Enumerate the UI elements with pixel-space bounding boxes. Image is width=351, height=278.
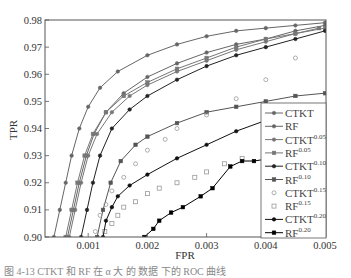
data-point xyxy=(272,178,276,182)
data-point xyxy=(128,184,132,188)
data-point xyxy=(128,108,132,112)
data-point xyxy=(86,154,90,158)
data-point xyxy=(175,67,179,71)
data-point xyxy=(122,175,126,179)
data-point xyxy=(294,32,298,36)
data-point xyxy=(83,154,87,158)
data-point xyxy=(122,94,126,98)
data-point xyxy=(70,154,74,158)
data-point xyxy=(169,211,173,215)
data-point xyxy=(234,45,238,49)
x-tick-label: 0.002 xyxy=(136,240,160,251)
data-point xyxy=(79,181,83,185)
y-tick-label: 0.95 xyxy=(24,96,42,107)
data-point xyxy=(152,227,156,231)
data-point xyxy=(181,205,185,209)
y-tick-label: 0.91 xyxy=(24,204,42,215)
data-point xyxy=(73,208,77,212)
x-tick-label: 0.001 xyxy=(76,240,100,251)
data-point xyxy=(146,53,150,57)
data-point xyxy=(146,75,150,79)
data-point xyxy=(116,213,120,217)
x-tick-label: 0.005 xyxy=(313,240,337,251)
data-point xyxy=(58,208,62,212)
x-tick-label: 0.003 xyxy=(195,240,219,251)
data-point xyxy=(234,129,238,133)
y-tick-label: 0.97 xyxy=(24,42,42,53)
data-point xyxy=(175,43,179,47)
data-point xyxy=(205,170,209,174)
legend: CTKTRFCTKT0.05RF0.05CTKT0.10RF0.10CTKT0.… xyxy=(261,103,326,239)
data-point xyxy=(110,189,114,193)
data-point xyxy=(157,219,161,223)
y-tick-label: 0.92 xyxy=(24,177,42,188)
data-point xyxy=(91,132,95,136)
data-point xyxy=(175,78,179,82)
data-point xyxy=(228,165,232,169)
data-point xyxy=(272,231,276,235)
data-point xyxy=(272,138,276,142)
data-point xyxy=(134,162,138,166)
data-point xyxy=(78,127,82,131)
data-point xyxy=(264,78,268,82)
data-point xyxy=(272,218,276,222)
data-point xyxy=(193,175,197,179)
data-point xyxy=(110,205,114,209)
y-tick-label: 0.96 xyxy=(24,69,42,80)
data-point xyxy=(272,125,276,129)
data-point xyxy=(205,64,209,68)
data-point xyxy=(294,94,298,98)
data-point xyxy=(175,181,179,185)
data-point xyxy=(116,70,120,74)
y-tick-label: 0.94 xyxy=(24,123,43,134)
data-point xyxy=(146,135,150,139)
data-point xyxy=(205,143,209,147)
data-point xyxy=(211,186,215,190)
data-point xyxy=(264,45,268,49)
data-point xyxy=(128,94,132,98)
y-tick-label: 0.98 xyxy=(24,15,42,26)
data-point xyxy=(110,127,114,131)
data-point xyxy=(110,221,114,225)
y-tick-label: 0.93 xyxy=(24,150,42,161)
x-tick-label: 0.004 xyxy=(254,240,278,251)
data-point xyxy=(272,164,276,168)
figure-caption: 图 4-13 CTKT 和 RF 在 α 大 的 数据 下的 ROC 曲线 xyxy=(4,263,226,278)
data-point xyxy=(234,105,238,109)
data-point xyxy=(157,186,161,190)
data-point xyxy=(205,56,209,60)
data-point xyxy=(146,94,150,98)
data-point xyxy=(317,26,321,30)
y-axis-title: TPR xyxy=(7,119,19,140)
data-point xyxy=(199,195,203,199)
data-point xyxy=(205,34,209,38)
data-point xyxy=(240,159,244,163)
data-point xyxy=(95,132,99,136)
data-point xyxy=(146,81,150,85)
legend-label: RF xyxy=(285,120,298,132)
data-point xyxy=(85,208,89,212)
data-point xyxy=(145,192,149,196)
data-point xyxy=(109,181,113,185)
x-axis-title: FPR xyxy=(175,249,195,261)
y-tick-label: 0.90 xyxy=(24,232,42,243)
data-point xyxy=(134,200,138,204)
data-point xyxy=(234,29,238,33)
data-point xyxy=(272,111,276,115)
data-point xyxy=(104,110,108,114)
data-point xyxy=(119,159,123,163)
data-point xyxy=(175,127,179,131)
data-point xyxy=(145,148,149,152)
data-point xyxy=(264,37,268,41)
data-point xyxy=(101,208,105,212)
data-point xyxy=(76,181,80,185)
data-point xyxy=(205,51,209,55)
data-point xyxy=(122,205,126,209)
data-point xyxy=(163,137,167,141)
data-point xyxy=(110,110,114,114)
data-point xyxy=(252,159,256,163)
data-point xyxy=(294,37,298,41)
data-point xyxy=(86,105,90,109)
data-point xyxy=(146,173,150,177)
